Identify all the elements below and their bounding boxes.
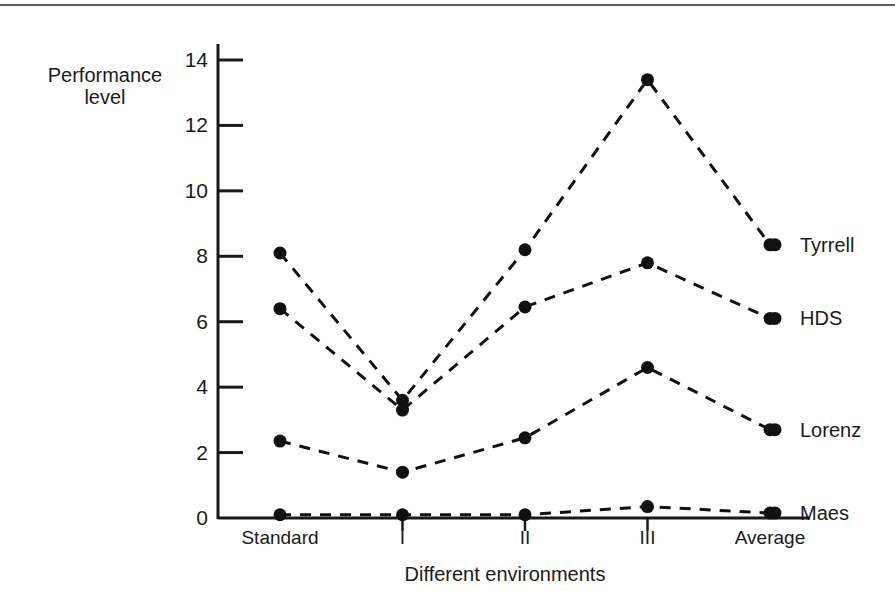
series-leader-markers: [769, 238, 782, 519]
y-tick-label: 12: [172, 114, 208, 135]
y-tick-label: 0: [172, 507, 208, 528]
figure-canvas: Performancelevel Different environments …: [0, 0, 895, 605]
y-axis-ticks: [218, 60, 243, 453]
y-tick-label: 4: [172, 376, 208, 397]
series-label-lorenz: Lorenz: [800, 420, 861, 440]
x-axis-title: Different environments: [345, 563, 665, 585]
y-tick-label: 6: [172, 311, 208, 332]
series-label-tyrrell: Tyrrell: [800, 235, 854, 255]
y-tick-label: 8: [172, 245, 208, 266]
y-axis-title: Performancelevel: [32, 64, 178, 108]
y-axis-title-line-2: level: [84, 86, 125, 108]
series-label-maes: Maes: [800, 503, 849, 523]
x-category-label-average: Average: [680, 528, 860, 547]
y-tick-label: 10: [172, 180, 208, 201]
y-axis-title-line-1: Performance: [48, 64, 163, 86]
series-label-hds: HDS: [800, 308, 842, 328]
y-tick-label: 14: [172, 49, 208, 70]
series-lines: [280, 80, 770, 515]
series-markers: [274, 73, 777, 521]
y-tick-label: 2: [172, 442, 208, 463]
